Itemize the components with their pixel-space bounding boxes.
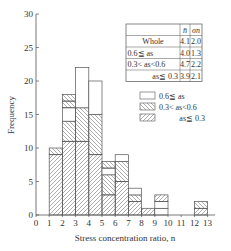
- x-ticks: 012345678910111213: [34, 215, 213, 228]
- bar-segment: [194, 208, 207, 215]
- bar-segment: [62, 121, 75, 141]
- stats-table-cell: 0.6≦ as: [128, 49, 154, 58]
- y-tick-label: 5: [29, 177, 34, 187]
- y-tick-label: 15: [24, 110, 34, 120]
- x-tick-label: 2: [60, 218, 65, 228]
- bar-segment: [155, 208, 168, 215]
- stats-table-cell: 2.1: [191, 72, 201, 81]
- x-tick-label: 5: [100, 218, 105, 228]
- bar-segment: [128, 202, 141, 215]
- bar-segment: [102, 161, 115, 168]
- y-ticks: 051015202530: [24, 9, 39, 220]
- y-tick-label: 0: [29, 210, 34, 220]
- bar-segment: [155, 195, 168, 202]
- histogram-chart: 051015202530 012345678910111213 Stress c…: [0, 0, 231, 251]
- stats-table-cell: 4.7: [180, 60, 190, 69]
- bar-segment: [49, 148, 62, 155]
- x-tick-label: 10: [164, 218, 174, 228]
- legend-label: as≦ 0.3: [179, 114, 205, 123]
- bar-bin: [49, 148, 62, 215]
- x-tick-label: 8: [139, 218, 144, 228]
- bar-segment: [89, 155, 102, 215]
- stats-table-cell: 3.9: [180, 72, 190, 81]
- bar-segment: [115, 161, 128, 181]
- bar-segment: [155, 202, 168, 209]
- bar-segment: [102, 195, 115, 215]
- stats-table-cell: 4.0: [180, 49, 190, 58]
- bar-bin: [115, 155, 128, 215]
- bar-bin: [62, 94, 75, 215]
- bar-segment: [62, 141, 75, 215]
- stats-table-cell: as≦ 0.3: [152, 72, 178, 81]
- bar-segment: [128, 195, 141, 202]
- legend-label: 0.6≦ as: [159, 92, 185, 101]
- bar-bin: [194, 202, 207, 215]
- y-tick-label: 30: [24, 9, 34, 19]
- legend: 0.6≦ as0.3< as<0.6as≦ 0.3: [140, 92, 205, 123]
- stats-table-header: σn: [192, 26, 200, 35]
- x-tick-label: 13: [203, 218, 213, 228]
- legend-swatch: [140, 92, 155, 99]
- x-tick-label: 12: [190, 218, 199, 228]
- x-axis-title: Stress concentration ratio, n: [75, 233, 176, 243]
- x-tick-label: 7: [126, 218, 131, 228]
- bar-segment: [102, 168, 115, 175]
- stats-table-cell: 2.2: [191, 60, 201, 69]
- bar-segment: [49, 155, 62, 215]
- bar-bin: [142, 208, 155, 215]
- bar-bin: [76, 68, 89, 215]
- stats-table-cell: 4.1: [180, 37, 190, 46]
- stats-table-cell: 0.3< as<0.6: [128, 60, 166, 69]
- bar-segment: [102, 175, 115, 195]
- bar-segment: [115, 182, 128, 216]
- x-tick-label: 0: [34, 218, 39, 228]
- x-tick-label: 9: [153, 218, 158, 228]
- legend-swatch: [140, 114, 155, 121]
- bar-segment: [89, 81, 102, 115]
- x-tick-label: 11: [177, 218, 186, 228]
- x-tick-label: 1: [47, 218, 52, 228]
- bar-segment: [142, 208, 155, 215]
- bar-segment: [194, 202, 207, 209]
- bar-bin: [102, 161, 115, 215]
- y-tick-label: 20: [24, 76, 34, 86]
- stats-table-cell: Whole: [142, 37, 164, 46]
- y-tick-label: 10: [24, 143, 34, 153]
- bar-segment: [76, 108, 89, 142]
- bar-bin: [155, 195, 168, 215]
- bar-bin: [128, 188, 141, 215]
- bar-segment: [128, 188, 141, 195]
- legend-label: 0.3< as<0.6: [159, 103, 197, 112]
- x-tick-label: 3: [73, 218, 78, 228]
- y-tick-label: 25: [24, 43, 34, 53]
- stats-table-header: n̄: [183, 26, 187, 35]
- bars-group: [49, 68, 207, 215]
- bar-segment: [76, 141, 89, 215]
- bar-segment: [89, 115, 102, 155]
- bar-segment: [62, 94, 75, 101]
- stats-table-cell: 2.0: [191, 37, 201, 46]
- x-tick-label: 6: [113, 218, 118, 228]
- bar-segment: [115, 155, 128, 162]
- legend-swatch: [140, 103, 155, 110]
- y-axis-title: Frequency: [6, 96, 16, 134]
- bar-segment: [76, 68, 89, 108]
- stats-table: n̄σnWhole4.12.00.6≦ as4.01.30.3< as<0.64…: [126, 24, 202, 82]
- bar-bin: [89, 81, 102, 215]
- x-tick-label: 4: [87, 218, 92, 228]
- bar-segment: [62, 108, 75, 121]
- bar-segment: [62, 101, 75, 108]
- stats-table-cell: 1.3: [191, 49, 201, 58]
